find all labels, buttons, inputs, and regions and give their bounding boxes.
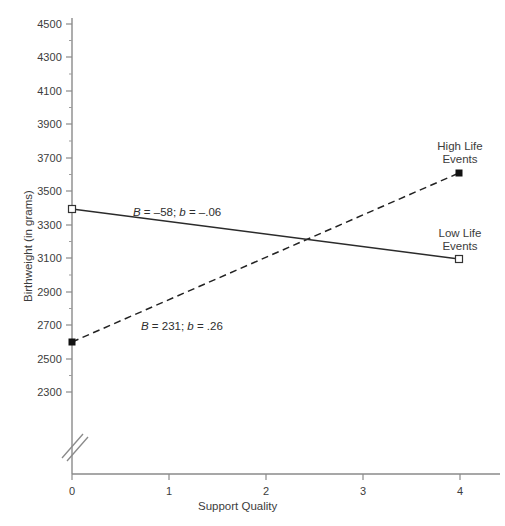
x-tick-label-2: 2 bbox=[246, 485, 286, 497]
annotation-low-life-events: B = –58; b = –.06 bbox=[133, 206, 221, 218]
series-line-high-life-events bbox=[72, 173, 459, 342]
y-tick-label-4300: 4300 bbox=[10, 51, 62, 63]
x-axis-ticks bbox=[72, 474, 460, 480]
y-tick-label-4100: 4100 bbox=[10, 85, 62, 97]
y-tick-label-2500: 2500 bbox=[10, 353, 62, 365]
x-tick-label-1: 1 bbox=[149, 485, 189, 497]
y-tick-label-4500: 4500 bbox=[10, 18, 62, 30]
marker-low-life-events-x4 bbox=[456, 256, 463, 263]
x-tick-label-4: 4 bbox=[440, 485, 480, 497]
y-tick-label-2900: 2900 bbox=[10, 286, 62, 298]
annotation-low-B-symbol: B bbox=[133, 206, 141, 218]
series-line-low-life-events bbox=[72, 209, 459, 259]
annotation-low-B-value: = –58; bbox=[141, 206, 180, 218]
annotation-high-B-value: = 231; bbox=[149, 320, 188, 332]
y-tick-label-2700: 2700 bbox=[10, 319, 62, 331]
annotation-low-b-value: = –.06 bbox=[186, 206, 222, 218]
annotation-high-life-events: B = 231; b = .26 bbox=[141, 320, 223, 332]
y-tick-label-3500: 3500 bbox=[10, 185, 62, 197]
marker-low-life-events-x0 bbox=[69, 206, 76, 213]
plot-area bbox=[0, 0, 505, 526]
y-axis-break-icon bbox=[62, 434, 88, 461]
annotation-high-B-symbol: B bbox=[141, 320, 149, 332]
series-label-low-line2: Events bbox=[415, 240, 505, 253]
series-label-low-line1: Low Life bbox=[415, 227, 505, 240]
marker-high-life-events-x0 bbox=[69, 339, 76, 346]
series-label-high-line2: Events bbox=[415, 153, 505, 166]
y-tick-label-2300: 2300 bbox=[10, 386, 62, 398]
series-label-high-line1: High Life bbox=[415, 140, 505, 153]
series-label-high-life-events: High Life Events bbox=[415, 140, 505, 165]
y-tick-label-3100: 3100 bbox=[10, 252, 62, 264]
x-axis-title: Support Quality bbox=[198, 500, 277, 512]
y-tick-label-3700: 3700 bbox=[10, 152, 62, 164]
marker-high-life-events-x4 bbox=[456, 170, 463, 177]
series-label-low-life-events: Low Life Events bbox=[415, 227, 505, 252]
x-tick-label-0: 0 bbox=[52, 485, 92, 497]
y-tick-label-3900: 3900 bbox=[10, 118, 62, 130]
x-tick-label-3: 3 bbox=[343, 485, 383, 497]
annotation-high-b-value: = .26 bbox=[194, 320, 223, 332]
y-axis-title: Birthweight (in grams) bbox=[22, 190, 34, 302]
chart-figure: 4500 4300 4100 3900 3700 3500 3300 3100 … bbox=[0, 0, 505, 526]
y-tick-label-3300: 3300 bbox=[10, 219, 62, 231]
